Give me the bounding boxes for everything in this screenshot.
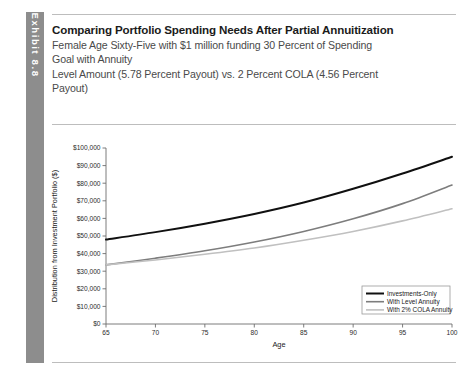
x-tick-label: 75	[201, 329, 209, 336]
x-tick-label: 85	[300, 329, 308, 336]
y-tick-label: $60,000	[77, 215, 101, 222]
y-axis-title: Distribution from Investment Portfolio (…	[50, 170, 59, 302]
x-tick-label: 90	[349, 329, 357, 336]
chart-subtitle-line-1: Female Age Sixty-Five with $1 million fu…	[52, 38, 456, 52]
x-tick-label: 70	[152, 329, 160, 336]
legend-label: Investments-Only	[387, 290, 438, 298]
x-tick-label: 65	[102, 329, 110, 336]
y-tick-label: $70,000	[77, 197, 101, 204]
chart-subtitle-line-2: Goal with Annuity	[52, 52, 456, 66]
chart-subtitle-line-3: Level Amount (5.78 Percent Payout) vs. 2…	[52, 67, 456, 81]
series-line	[106, 157, 452, 240]
x-axis-title: Age	[272, 340, 285, 349]
y-tick-label: $0	[93, 320, 101, 327]
footer-divider	[52, 362, 456, 363]
line-chart: $0$10,000$20,000$30,000$40,000$50,000$60…	[48, 140, 458, 358]
series-lines	[106, 157, 452, 265]
series-line	[106, 185, 452, 265]
y-axis: $0$10,000$20,000$30,000$40,000$50,000$60…	[73, 144, 106, 327]
x-tick-label: 95	[399, 329, 407, 336]
y-tick-label: $100,000	[73, 144, 101, 151]
x-tick-label: 100	[446, 329, 457, 336]
page-title: Comparing Portfolio Spending Needs After…	[52, 22, 456, 37]
chart-subtitle-line-4: Payout)	[52, 81, 456, 95]
y-tick-label: $40,000	[77, 250, 101, 257]
chart-legend: Investments-OnlyWith Level AnnuityWith 2…	[362, 286, 453, 314]
y-tick-label: $50,000	[77, 232, 101, 239]
y-tick-label: $80,000	[77, 180, 101, 187]
x-tick-label: 80	[251, 329, 259, 336]
legend-label: With Level Annuity	[387, 298, 440, 306]
y-tick-label: $90,000	[77, 162, 101, 169]
y-tick-label: $20,000	[77, 285, 101, 292]
exhibit-frame: Exhibit 8.8 Comparing Portfolio Spending…	[0, 0, 465, 392]
header-divider	[52, 124, 456, 125]
chart-plot-area: $0$10,000$20,000$30,000$40,000$50,000$60…	[48, 140, 458, 358]
y-tick-label: $10,000	[77, 303, 101, 310]
y-tick-label: $30,000	[77, 268, 101, 275]
chart-header: Comparing Portfolio Spending Needs After…	[52, 14, 456, 96]
x-axis: 65707580859095100	[102, 324, 457, 336]
exhibit-tab: Exhibit 8.8	[26, 12, 44, 363]
legend-label: With 2% COLA Annuity	[387, 306, 453, 314]
exhibit-tab-label: Exhibit 8.8	[30, 13, 41, 203]
